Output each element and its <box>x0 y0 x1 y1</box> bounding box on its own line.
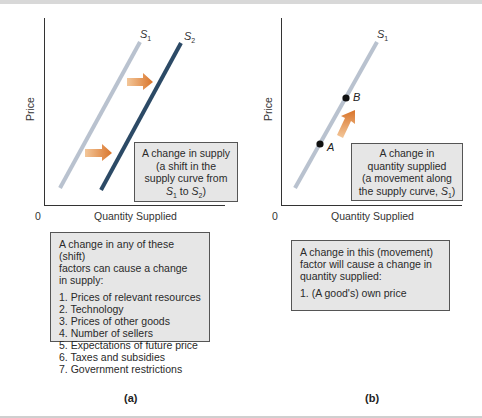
panel-b-x-axis-label: Quantity Supplied <box>331 210 414 222</box>
panel-a-caption: (a) <box>124 392 137 404</box>
panel-b-origin-label: 0 <box>272 210 278 222</box>
callout-word: ) <box>452 185 456 197</box>
intro-line: A change in this (movement) <box>300 246 441 258</box>
intro-line: in supply: <box>59 274 201 286</box>
callout-line: A change in supply <box>138 147 234 160</box>
callout-line: the supply curve, S1) <box>355 185 459 203</box>
curve-name: S <box>192 185 199 197</box>
shift-right-arrow-icon <box>127 73 153 90</box>
panel-a-s1-label: S1 <box>140 28 151 42</box>
factor-box-intro: A change in any of these (shift) factors… <box>59 238 201 286</box>
list-item: 2. Technology <box>59 303 201 315</box>
intro-line: quantity supplied: <box>300 270 441 282</box>
curve-subscript: 1 <box>384 35 388 42</box>
list-item: 1. (A good's) own price <box>300 287 441 299</box>
list-item: 7. Government restrictions <box>59 363 201 375</box>
point-a-label: A <box>327 141 334 153</box>
shift-factors-list: 1. Prices of relevant resources 2. Techn… <box>59 291 201 375</box>
curve-subscript: 2 <box>191 37 195 44</box>
callout-word: ) <box>202 185 206 197</box>
panel-b-y-axis-label: Price <box>262 97 274 121</box>
intro-line: A change in any of these (shift) <box>59 238 201 262</box>
point-b-marker <box>342 94 349 101</box>
callout-line: (a shift in the <box>138 160 234 173</box>
curve-name: S <box>166 185 173 197</box>
curve-subscript: 1 <box>147 35 151 42</box>
factor-box-intro: A change in this (movement) factor will … <box>300 246 441 282</box>
panel-b-caption: (b) <box>365 392 379 404</box>
point-b-label: B <box>353 91 360 103</box>
panel-a-x-axis-label: Quantity Supplied <box>94 210 177 222</box>
callout-line: supply curve from <box>138 172 234 185</box>
callout-line: (a movement along <box>355 172 459 185</box>
movement-along-curve-arrow-icon <box>337 110 355 138</box>
panel-a-callout-change-in-supply: A change in supply (a shift in the suppl… <box>134 142 238 202</box>
callout-line: S1 to S2) <box>138 185 234 203</box>
list-item: 3. Prices of other goods <box>59 315 201 327</box>
panel-a-s2-label: S2 <box>184 30 195 44</box>
callout-word: to <box>180 185 189 197</box>
intro-line: factor will cause a change in <box>300 258 441 270</box>
point-a-marker <box>316 140 323 147</box>
panel-a-shift-factors-box: A change in any of these (shift) factors… <box>50 232 210 342</box>
shift-right-arrow-icon <box>85 144 112 161</box>
panel-b-callout-change-in-quantity-supplied: A change in quantity supplied (a movemen… <box>351 143 463 201</box>
panel-b-s1-label: S1 <box>377 28 388 42</box>
panel-a-y-axis-label: Price <box>24 97 36 121</box>
list-item: 4. Number of sellers <box>59 327 201 339</box>
curve-name: S <box>441 185 448 197</box>
list-item: 5. Expectations of future price <box>59 339 201 351</box>
movement-factors-list: 1. (A good's) own price <box>300 287 441 299</box>
panel-a-supply-curve-s1 <box>60 42 140 188</box>
panel-b-movement-factor-box: A change in this (movement) factor will … <box>291 240 450 311</box>
intro-line: factors can cause a change <box>59 262 201 274</box>
callout-line: A change in <box>355 147 459 160</box>
list-item: 1. Prices of relevant resources <box>59 291 201 303</box>
curve-subscript: 1 <box>173 192 177 199</box>
panel-a-origin-label: 0 <box>35 210 41 222</box>
callout-line: quantity supplied <box>355 160 459 173</box>
callout-word: the supply curve, <box>359 185 441 197</box>
list-item: 6. Taxes and subsidies <box>59 351 201 363</box>
